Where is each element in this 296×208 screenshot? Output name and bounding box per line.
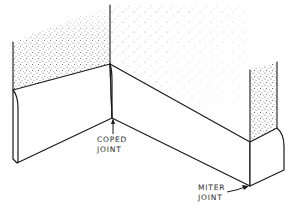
coped-label-line2: JOINT [97, 145, 127, 155]
coped-joint-label: COPED JOINT [97, 135, 127, 154]
baseboard-diagram [0, 0, 296, 208]
miter-joint-arrow [227, 185, 249, 192]
coped-joint-arrow [111, 118, 115, 134]
coped-label-line1: COPED [97, 135, 127, 145]
miter-label-line1: MITER [198, 183, 225, 193]
miter-label-line2: JOINT [198, 193, 225, 203]
miter-joint-label: MITER JOINT [198, 183, 225, 202]
